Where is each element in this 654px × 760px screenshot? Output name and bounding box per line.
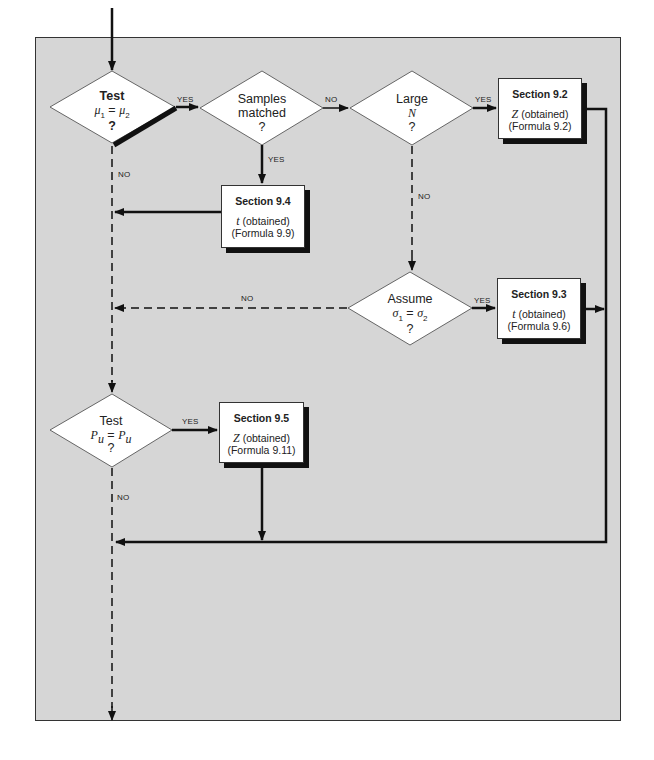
d4-question: ?	[360, 322, 460, 336]
s95-stat-rest: (obtained)	[240, 432, 290, 444]
decision-equal-variances-text: Assume σ1 = σ2 ?	[360, 292, 460, 336]
s92-title: Section 9.2	[499, 88, 581, 100]
label-d5-no: NO	[117, 493, 129, 502]
section-9-2-box: Section 9.2 Z (obtained) (Formula 9.2)	[498, 78, 582, 139]
label-d4-yes: YES	[474, 296, 491, 305]
s95-stat: Z	[233, 431, 240, 445]
s93-title: Section 9.3	[498, 288, 580, 300]
s94-stat-rest: (obtained)	[240, 215, 290, 227]
s93-stat-rest: (obtained)	[516, 308, 566, 320]
s95-formula: (Formula 9.11)	[220, 444, 303, 456]
d5-sub2: u	[125, 432, 131, 446]
label-d2-no: NO	[325, 95, 337, 104]
d2-line1: Samples	[212, 92, 312, 106]
s95-title: Section 9.5	[220, 412, 303, 424]
d5-question: ?	[61, 441, 161, 455]
d5-line1: Test	[61, 414, 161, 428]
d2-line2: matched	[212, 106, 312, 120]
d4-sub2: 2	[423, 314, 427, 323]
d3-line1: Large	[362, 92, 462, 106]
label-d5-yes: YES	[182, 417, 199, 426]
s92-formula: (Formula 9.2)	[499, 120, 581, 132]
s94-title: Section 9.4	[222, 195, 304, 207]
s94-formula: (Formula 9.9)	[222, 227, 304, 239]
s93-formula: (Formula 9.6)	[498, 320, 580, 332]
label-d3-no: NO	[418, 192, 430, 201]
decision-test-proportions-text: Test Pu = Pu ?	[61, 414, 161, 455]
decision-samples-matched-text: Samples matched ?	[212, 92, 312, 134]
decision-test-means-text: Test μ1 = μ2 ?	[62, 89, 162, 133]
d1-sub2: 2	[125, 111, 129, 120]
d1-title: Test	[62, 89, 162, 103]
label-d2-yes: YES	[268, 155, 285, 164]
d4-line1: Assume	[360, 292, 460, 306]
d4-eq: =	[403, 306, 417, 320]
d1-eq: =	[105, 103, 119, 117]
d3-line2: N	[362, 106, 462, 120]
label-d3-yes: YES	[475, 95, 492, 104]
decision-large-n-text: Large N ?	[362, 92, 462, 134]
d1-question: ?	[62, 119, 162, 133]
section-9-4-box: Section 9.4 t (obtained) (Formula 9.9)	[221, 185, 305, 248]
label-d1-no: NO	[118, 170, 130, 179]
d5-p1: P	[91, 428, 98, 442]
label-d4-no: NO	[241, 294, 253, 303]
label-d1-yes: YES	[177, 95, 194, 104]
d3-question: ?	[362, 120, 462, 134]
d2-question: ?	[212, 120, 312, 134]
section-9-3-box: Section 9.3 t (obtained) (Formula 9.6)	[497, 278, 581, 339]
d5-eq: =	[104, 428, 118, 442]
section-9-5-box: Section 9.5 Z (obtained) (Formula 9.11)	[219, 402, 304, 463]
s92-stat-rest: (obtained)	[518, 108, 568, 120]
